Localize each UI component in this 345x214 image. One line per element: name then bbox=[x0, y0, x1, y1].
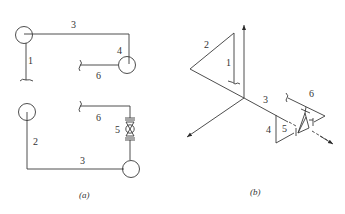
pipe-6-top-end-cap bbox=[79, 60, 82, 71]
pipe-diagram-canvas: 3 1 4 6 2 3 5 6 (a) bbox=[0, 0, 345, 214]
axis-left-arrow bbox=[187, 98, 244, 137]
label-2: 2 bbox=[33, 136, 38, 147]
label-6-top: 6 bbox=[96, 70, 101, 81]
label-6-bottom: 6 bbox=[96, 112, 101, 123]
riser-circle-bottom-right bbox=[123, 161, 140, 178]
pipe-6-bottom bbox=[80, 106, 130, 118]
outlet-arrow bbox=[320, 136, 333, 144]
label-1: 1 bbox=[226, 57, 231, 68]
label-2: 2 bbox=[204, 39, 209, 50]
pipe-2-and-3 bbox=[27, 112, 124, 169]
figure-a: 3 1 4 6 2 3 5 6 (a) bbox=[16, 19, 140, 200]
label-3-top: 3 bbox=[71, 19, 76, 30]
label-5: 5 bbox=[282, 123, 287, 134]
caption-b: (b) bbox=[250, 187, 261, 197]
pipe-3-hidden bbox=[289, 122, 296, 126]
valve-5 bbox=[298, 107, 313, 133]
label-3-bottom: 3 bbox=[80, 155, 85, 166]
pipe-1-end-cap bbox=[20, 79, 33, 81]
label-4: 4 bbox=[117, 45, 122, 56]
riser-circle-top-left bbox=[16, 27, 33, 44]
label-5: 5 bbox=[115, 124, 120, 135]
valve-5 bbox=[125, 118, 135, 160]
label-3: 3 bbox=[263, 94, 268, 105]
figure-b: 2 1 3 4 5 6 (b) bbox=[187, 25, 333, 197]
pipe-6-bottom-end-cap bbox=[79, 101, 82, 112]
caption-a: (a) bbox=[79, 190, 90, 200]
pipe-2 bbox=[190, 33, 244, 98]
label-6: 6 bbox=[309, 88, 314, 99]
label-1: 1 bbox=[28, 55, 33, 66]
riser-circle-4 bbox=[119, 57, 136, 74]
pipe-6-end-cap bbox=[286, 93, 288, 102]
label-4: 4 bbox=[266, 124, 271, 135]
pipe-3-top bbox=[24, 34, 129, 64]
